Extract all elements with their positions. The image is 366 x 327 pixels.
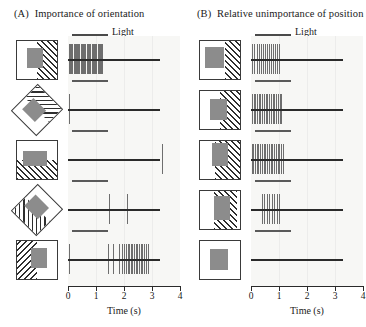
axis-tick-label: 1 <box>94 291 99 301</box>
stimulus-response-row <box>183 36 366 86</box>
light-stimulus-bar <box>251 109 343 111</box>
stimulus-box <box>11 84 63 136</box>
panel-b-tag: (B) <box>197 8 211 19</box>
stimulus-box <box>16 140 58 180</box>
panel-a-xlabel: Time (s) <box>68 305 180 316</box>
stimulus-response-row <box>0 36 183 86</box>
row-separator-bar <box>72 80 108 82</box>
stimulus-icon-diagonal-bar-hatch-right <box>16 90 60 132</box>
panel-b: (B) Relative unimportance of position Li… <box>183 0 366 327</box>
light-stimulus-bar <box>251 209 343 211</box>
stimulus-icon-no-bar-blank <box>199 240 243 282</box>
stimulus-response-row <box>0 86 183 136</box>
gray-bar <box>212 143 228 166</box>
row-separator-bar <box>255 230 291 232</box>
spike-raster-plot <box>251 86 363 136</box>
spike-raster-plot <box>251 186 363 236</box>
light-stimulus-bar <box>68 109 160 111</box>
stimulus-box <box>16 40 58 80</box>
stimulus-icon-bar-position-1 <box>199 40 243 82</box>
spike-raster-plot <box>68 236 180 286</box>
row-separator-bar <box>72 180 108 182</box>
axis-tick-label: 2 <box>305 291 310 301</box>
panel-b-title-text: Relative unimportance of position <box>217 8 363 19</box>
stimulus-icon-bar-position-2 <box>199 90 243 132</box>
axis-tick-label: 0 <box>249 291 254 301</box>
panel-a-axis: 01234 <box>68 286 180 296</box>
light-stimulus-bar <box>68 59 160 61</box>
stimulus-response-row <box>183 236 366 286</box>
panel-a-title: (A) Importance of orientation <box>14 8 144 19</box>
stimulus-response-row <box>0 186 183 236</box>
light-stimulus-bar <box>251 259 343 261</box>
spike-raster-plot <box>68 36 180 86</box>
spike-mark <box>162 144 163 174</box>
panel-a-tag: (A) <box>14 8 29 19</box>
gray-bar <box>210 99 228 120</box>
axis-tick-label: 3 <box>333 291 338 301</box>
hatch-region <box>225 41 240 79</box>
stimulus-box <box>199 140 241 180</box>
row-separator-bar <box>255 130 291 132</box>
axis-tick-label: 2 <box>122 291 127 301</box>
axis-tick-label: 1 <box>277 291 282 301</box>
gray-bar <box>27 48 43 68</box>
stimulus-response-row <box>0 136 183 186</box>
light-stimulus-bar <box>251 159 343 161</box>
stimulus-response-row <box>183 136 366 186</box>
panel-a-rows <box>0 36 183 286</box>
gray-bar <box>31 248 47 268</box>
panel-b-title: (B) Relative unimportance of position <box>197 8 364 19</box>
spike-raster-plot <box>68 136 180 186</box>
stimulus-icon-bar-position-3 <box>199 140 243 182</box>
stimulus-icon-bar-position-4 <box>199 190 243 232</box>
stimulus-box <box>11 184 63 236</box>
panel-b-rows <box>183 36 366 286</box>
panel-a: (A) Importance of orientation Light 0123… <box>0 0 183 327</box>
gray-bar <box>205 47 224 68</box>
stimulus-icon-diagonal-bar-hatch-left <box>16 190 60 232</box>
stimulus-icon-vertical-bar-hatch-left <box>16 240 60 282</box>
light-stimulus-bar <box>68 209 160 211</box>
light-stimulus-bar <box>251 59 343 61</box>
row-separator-bar <box>72 230 108 232</box>
stimulus-box <box>16 240 58 280</box>
stimulus-box <box>199 40 241 80</box>
panel-b-axis: 01234 <box>251 286 363 296</box>
stimulus-response-row <box>183 186 366 236</box>
stimulus-response-row <box>183 86 366 136</box>
row-separator-bar <box>72 130 108 132</box>
spike-raster-plot <box>251 36 363 86</box>
axis-tick-label: 4 <box>178 291 183 301</box>
stimulus-icon-vertical-bar-hatch-right <box>16 40 60 82</box>
stimulus-icon-horizontal-bar-hatch-bottom <box>16 140 60 182</box>
panel-b-xlabel: Time (s) <box>251 305 363 316</box>
stimulus-box <box>199 90 241 130</box>
spike-raster-plot <box>251 136 363 186</box>
gray-bar <box>23 151 48 166</box>
light-stimulus-bar <box>68 159 160 161</box>
axis-tick-label: 3 <box>150 291 155 301</box>
stimulus-box <box>199 190 241 230</box>
row-separator-bar <box>255 80 291 82</box>
stimulus-box <box>199 240 241 280</box>
row-separator-bar <box>255 180 291 182</box>
gray-bar <box>214 196 230 220</box>
panel-a-title-text: Importance of orientation <box>35 8 145 19</box>
axis-tick-label: 0 <box>66 291 71 301</box>
axis-tick-label: 4 <box>361 291 366 301</box>
spike-raster-plot <box>251 236 363 286</box>
gray-bar <box>210 249 228 270</box>
spike-raster-plot <box>68 186 180 236</box>
light-stimulus-bar <box>68 259 160 261</box>
spike-raster-plot <box>68 86 180 136</box>
stimulus-response-row <box>0 236 183 286</box>
